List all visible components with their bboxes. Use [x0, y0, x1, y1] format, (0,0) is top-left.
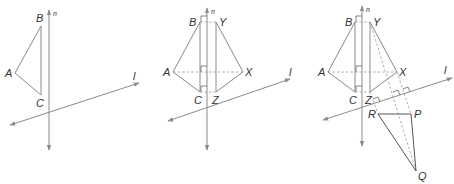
- right-angle-mark-l-3: [403, 87, 410, 92]
- panel-2: B Y A X C Z n l: [162, 8, 292, 150]
- label-l: l: [444, 64, 447, 76]
- line-l: [10, 83, 139, 125]
- label-l: l: [289, 66, 292, 78]
- label-c: C: [349, 94, 357, 106]
- right-angle-mark-top: [356, 16, 362, 22]
- triangle-rpq: [378, 114, 416, 171]
- label-x: X: [244, 66, 253, 78]
- right-angle-mark-mid: [356, 66, 362, 72]
- label-n: n: [366, 6, 370, 13]
- right-angle-mark-mid: [201, 66, 207, 72]
- label-z: Z: [364, 94, 373, 106]
- triangle-yxz: [370, 22, 397, 92]
- label-p: P: [414, 108, 422, 120]
- triangle-abc: [15, 26, 41, 95]
- line-l: [168, 79, 290, 121]
- panel-3: B Y A X C Z R P Q n l: [317, 6, 452, 182]
- label-a: A: [4, 67, 12, 79]
- right-angle-mark-bottom: [201, 86, 207, 92]
- label-z: Z: [211, 94, 220, 106]
- label-c: C: [194, 94, 202, 106]
- label-b: B: [36, 12, 43, 24]
- reflection-diagram: B A C n l B Y A X C Z n l: [0, 0, 454, 184]
- label-l: l: [133, 70, 136, 82]
- label-b: B: [189, 16, 196, 28]
- label-c: C: [36, 97, 44, 109]
- label-x: X: [398, 66, 407, 78]
- label-y: Y: [219, 16, 227, 28]
- label-n: n: [53, 10, 57, 17]
- label-y: Y: [373, 16, 381, 28]
- right-angle-mark-top: [201, 16, 207, 22]
- label-q: Q: [418, 170, 427, 182]
- panel-1: B A C n l: [4, 10, 139, 150]
- triangle-yxz: [216, 22, 243, 92]
- segment-yq: [370, 22, 416, 171]
- right-angle-mark-bottom: [356, 86, 362, 92]
- right-angle-mark-l-1: [373, 97, 380, 102]
- triangle-abc: [328, 22, 355, 92]
- label-n: n: [211, 8, 215, 15]
- label-b: B: [345, 16, 352, 28]
- right-angle-mark-l-2: [393, 90, 400, 95]
- label-a: A: [317, 66, 325, 78]
- triangle-abc: [173, 22, 200, 92]
- label-r: R: [368, 108, 376, 120]
- label-a: A: [162, 66, 170, 78]
